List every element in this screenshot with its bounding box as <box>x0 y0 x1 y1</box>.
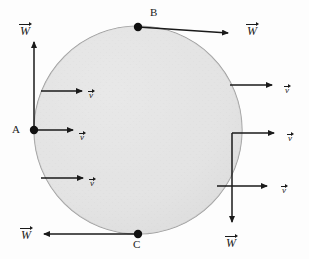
vector-label-velocity-at-A: v <box>80 127 84 143</box>
vector-symbol-v: v <box>89 91 93 100</box>
vector-symbol-W: W <box>226 237 236 249</box>
vector-label-weight-at-A: W <box>20 22 30 38</box>
vector-symbol-v: v <box>80 133 84 142</box>
point-B-dot <box>134 23 142 31</box>
vector-label-weight-at-B: W <box>247 22 257 38</box>
point-label-B: B <box>150 7 157 18</box>
vector-symbol-W: W <box>247 25 257 37</box>
vector-symbol-v: v <box>282 186 286 195</box>
diagram-canvas <box>0 0 309 259</box>
vector-symbol-v: v <box>288 134 292 143</box>
point-label-A: A <box>12 124 20 135</box>
vector-label-velocity-upper-left: v <box>89 85 93 101</box>
vector-symbol-v: v <box>285 86 289 95</box>
vector-symbol-v: v <box>90 179 94 188</box>
vector-label-weight-right-side: W <box>226 234 236 250</box>
point-label-C: C <box>133 239 140 250</box>
point-A-dot <box>30 126 38 134</box>
vector-label-velocity-upper-right: v <box>285 80 289 96</box>
vector-label-velocity-lower-right: v <box>282 180 286 196</box>
vector-label-weight-at-C: W <box>21 226 31 242</box>
point-C-dot <box>134 230 142 238</box>
vector-symbol-W: W <box>20 25 30 37</box>
vector-symbol-W: W <box>21 229 31 241</box>
physics-diagram: A B C W W W W v v v v v v <box>0 0 309 259</box>
vector-label-velocity-lower-left: v <box>90 173 94 189</box>
vector-label-velocity-middle-right: v <box>288 128 292 144</box>
